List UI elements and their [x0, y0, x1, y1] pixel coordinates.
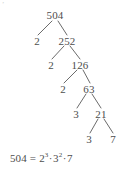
equation-terms: 23·32·7 — [39, 152, 73, 164]
equation-term-exponent: 2 — [59, 151, 63, 159]
tree-node-252-2: 252 — [58, 36, 75, 47]
equation-term-exponent: 3 — [45, 151, 49, 159]
tree-node-7-10: 7 — [110, 134, 116, 145]
tree-branch-n252-n126 — [70, 46, 80, 59]
tree-branch-n126-n2c — [64, 70, 77, 83]
tree-node-126-4: 126 — [71, 60, 88, 71]
tree-branch-n21-n3b — [90, 119, 98, 133]
tree-branch-n504-n2a — [38, 21, 52, 35]
tree-branch-n504-n252 — [58, 21, 67, 35]
tree-branch-n63-n3a — [77, 94, 86, 108]
tree-node-2-3: 2 — [48, 60, 54, 71]
tree-branch-n252-n2b — [52, 46, 64, 59]
tree-node-3-7: 3 — [73, 109, 79, 120]
factorization-equation: 504=23·32·7 — [10, 152, 73, 164]
factor-tree-figure: ’ 5042252212626332137 504=23·32·7 — [0, 0, 125, 171]
tree-node-2-5: 2 — [60, 84, 66, 95]
tree-node-63-6: 63 — [83, 84, 94, 95]
tree-branch-n21-n7 — [104, 119, 113, 133]
tree-node-2-1: 2 — [34, 36, 40, 47]
tree-node-3-9: 3 — [86, 134, 92, 145]
tree-branch-n126-n63 — [83, 70, 90, 83]
equation-term-base: 7 — [67, 152, 73, 164]
tree-node-21-8: 21 — [95, 109, 106, 120]
tree-node-504-0: 504 — [46, 10, 63, 21]
equation-equals-sign: = — [30, 152, 36, 164]
tree-branch-n63-n21 — [92, 94, 101, 108]
equation-left-operand: 504 — [10, 152, 27, 164]
